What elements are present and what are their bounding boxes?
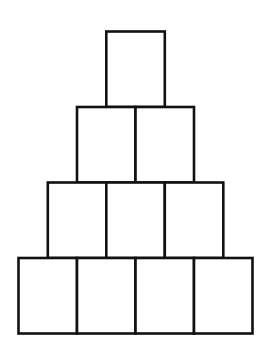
pyramid-box-row2-col2 — [136, 107, 195, 183]
pyramid-box-row4-col1 — [19, 258, 78, 334]
pyramid-box-row3-col1 — [48, 183, 107, 259]
pyramid-box-row1-col1 — [106, 32, 165, 108]
pyramid-boxes — [19, 32, 253, 334]
pyramid-box-row4-col3 — [136, 258, 195, 334]
pyramid-box-row4-col4 — [194, 258, 253, 334]
pyramid-box-row3-col3 — [165, 183, 224, 259]
pyramid-box-row4-col2 — [77, 258, 136, 334]
pyramid-box-row2-col1 — [77, 107, 136, 183]
pyramid-box-row3-col2 — [106, 183, 165, 259]
block-pyramid-diagram — [0, 0, 268, 346]
